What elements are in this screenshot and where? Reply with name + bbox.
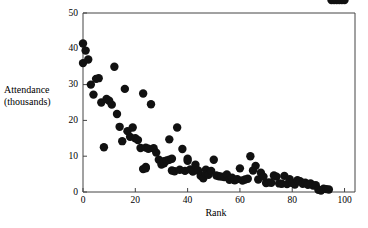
scatter-point (108, 100, 116, 108)
scatter-point (168, 155, 176, 163)
y-tick-label: 50 (69, 8, 79, 18)
scatter-point (94, 74, 102, 82)
y-tick-label: 10 (69, 151, 79, 161)
scatter-point (134, 136, 142, 144)
scatter-point (173, 123, 181, 131)
scatter-point (178, 145, 186, 153)
x-tick-label: 80 (287, 195, 297, 205)
chart-canvas: 01020304050 020406080100 Rank (0, 0, 368, 228)
x-axis-title: Rank (205, 207, 226, 218)
scatter-point (244, 175, 252, 183)
scatter-point (128, 123, 136, 131)
scatter-point (236, 164, 244, 172)
x-tick-label: 40 (183, 195, 193, 205)
scatter-point (113, 110, 121, 118)
x-axis-ticks: 020406080100 (81, 188, 352, 205)
scatter-point (251, 162, 259, 170)
scatter-point (152, 148, 160, 156)
scatter-point (325, 185, 333, 193)
y-axis-ticks: 01020304050 (69, 8, 88, 197)
scatter-point (79, 39, 87, 47)
plot-frame (83, 13, 355, 192)
scatter-point (246, 152, 254, 160)
scatter-point (84, 55, 92, 63)
scatter-point (100, 143, 108, 151)
scatter-point (147, 100, 155, 108)
x-tick-label: 20 (131, 195, 141, 205)
scatter-point (118, 137, 126, 145)
y-tick-label: 0 (73, 187, 78, 197)
scatter-point (89, 90, 97, 98)
x-tick-label: 0 (81, 195, 86, 205)
scatter-point (81, 46, 89, 54)
x-tick-label: 60 (235, 195, 245, 205)
scatter-plot-figure: Attendance(thousands) 01020304050 020406… (0, 0, 368, 228)
scatter-point (121, 85, 129, 93)
scatter-point (210, 156, 218, 164)
y-tick-label: 40 (69, 43, 79, 53)
scatter-point (183, 157, 191, 165)
y-tick-label: 20 (69, 115, 79, 125)
scatter-point (110, 62, 118, 70)
scatter-point (165, 135, 173, 143)
scatter-point (139, 89, 147, 97)
scatter-point (142, 164, 150, 172)
scatter-point (115, 123, 123, 131)
y-tick-label: 30 (69, 79, 79, 89)
scatter-points (79, 0, 349, 195)
x-tick-label: 100 (337, 195, 352, 205)
